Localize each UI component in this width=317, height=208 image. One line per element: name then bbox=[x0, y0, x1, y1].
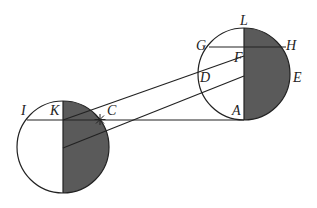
diagram: L G H F D E A I K C bbox=[0, 0, 317, 208]
label-H: H bbox=[286, 39, 296, 53]
label-D: D bbox=[200, 71, 210, 85]
label-L: L bbox=[240, 14, 248, 28]
label-A: A bbox=[232, 104, 241, 118]
label-K: K bbox=[50, 104, 59, 118]
label-C: C bbox=[107, 104, 116, 118]
label-G: G bbox=[196, 39, 206, 53]
star-icon bbox=[95, 114, 106, 125]
label-F: F bbox=[234, 51, 243, 65]
label-I: I bbox=[21, 104, 26, 118]
right-circle-shade bbox=[244, 28, 290, 120]
left-circle-shade bbox=[63, 101, 109, 193]
diagram-figure bbox=[0, 0, 317, 208]
label-E: E bbox=[293, 71, 302, 85]
